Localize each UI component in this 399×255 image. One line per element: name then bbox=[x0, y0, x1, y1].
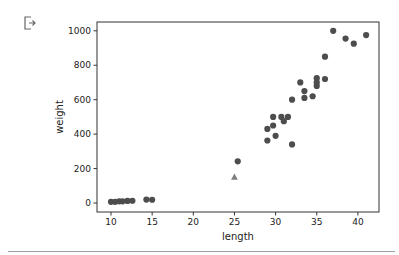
data-point bbox=[143, 196, 149, 202]
data-point bbox=[301, 95, 307, 101]
x-tick-label: 15 bbox=[146, 217, 157, 227]
data-point bbox=[285, 114, 291, 120]
data-point bbox=[273, 133, 279, 139]
data-point bbox=[301, 88, 307, 94]
y-tick-label: 200 bbox=[74, 164, 91, 174]
plot-frame bbox=[97, 22, 379, 212]
scatter-chart: 1015202530354002004006008001000 length w… bbox=[0, 0, 399, 250]
y-tick-label: 400 bbox=[74, 129, 91, 139]
data-point bbox=[314, 75, 320, 81]
data-point bbox=[330, 28, 336, 34]
x-tick-label: 20 bbox=[188, 217, 200, 227]
y-tick-label: 1000 bbox=[68, 26, 91, 36]
x-tick-label: 30 bbox=[270, 217, 282, 227]
data-point bbox=[129, 198, 135, 204]
data-point bbox=[264, 137, 270, 143]
data-point bbox=[289, 97, 295, 103]
x-tick-label: 10 bbox=[105, 217, 117, 227]
data-point bbox=[363, 32, 369, 38]
y-tick-label: 0 bbox=[85, 198, 91, 208]
data-point bbox=[289, 141, 295, 147]
data-point bbox=[235, 158, 241, 164]
data-point bbox=[310, 93, 316, 99]
x-axis-label: length bbox=[222, 231, 254, 242]
data-point bbox=[322, 76, 328, 82]
y-tick-label: 800 bbox=[74, 60, 91, 70]
cell-separator bbox=[8, 251, 395, 252]
data-point bbox=[351, 41, 357, 47]
x-tick-label: 40 bbox=[352, 217, 364, 227]
data-point bbox=[270, 122, 276, 128]
data-point bbox=[264, 126, 270, 132]
data-point bbox=[297, 79, 303, 85]
data-point bbox=[149, 197, 155, 203]
y-axis-label: weight bbox=[54, 100, 65, 134]
y-tick-label: 600 bbox=[74, 95, 91, 105]
x-tick-label: 35 bbox=[311, 217, 322, 227]
x-tick-label: 25 bbox=[229, 217, 240, 227]
data-point bbox=[322, 54, 328, 60]
data-point bbox=[270, 114, 276, 120]
data-point bbox=[342, 35, 348, 41]
